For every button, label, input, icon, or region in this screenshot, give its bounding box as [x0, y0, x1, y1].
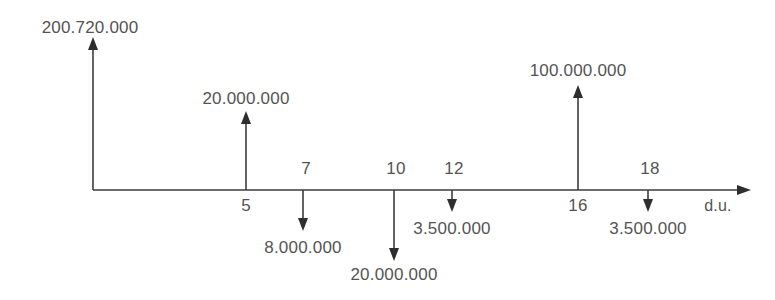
amount-label-period-18: 3.500.000 — [609, 219, 686, 239]
period-label-7: 7 — [301, 159, 311, 179]
cash-flow-diagram: 200.720.000 20.000.000 8.000.000 20.000.… — [0, 0, 775, 300]
flow-arrow-period-10 — [389, 190, 399, 261]
arrow-up-icon-period-5 — [241, 111, 251, 124]
arrow-down-icon-period-18 — [643, 199, 653, 212]
axis-unit-label: d.u. — [704, 197, 732, 215]
cash-flow-canvas — [0, 0, 775, 300]
flow-arrow-period-5 — [241, 111, 251, 190]
time-axis — [93, 185, 751, 195]
amount-label-period-7: 8.000.000 — [264, 238, 341, 258]
arrow-down-icon-period-12 — [447, 199, 457, 212]
amount-label-period-5: 20.000.000 — [202, 89, 289, 109]
flow-arrow-period-12 — [447, 190, 457, 212]
flow-arrow-period-18 — [643, 190, 653, 212]
amount-label-period-0: 200.720.000 — [42, 18, 139, 38]
amount-label-period-16: 100.000.000 — [530, 61, 627, 81]
period-label-5: 5 — [241, 196, 251, 216]
arrow-down-icon-period-7 — [298, 218, 308, 231]
axis-arrowhead-icon — [737, 185, 751, 195]
arrow-up-icon-period-0 — [88, 37, 98, 50]
period-label-12: 12 — [444, 159, 463, 179]
arrow-up-icon-period-16 — [573, 85, 583, 98]
flow-arrow-period-7 — [298, 190, 308, 231]
flow-arrow-period-16 — [573, 85, 583, 190]
flow-arrow-period-0 — [88, 37, 98, 190]
period-label-16: 16 — [568, 196, 587, 216]
amount-label-period-10: 20.000.000 — [350, 265, 437, 285]
arrow-down-icon-period-10 — [389, 248, 399, 261]
amount-label-period-12: 3.500.000 — [413, 219, 490, 239]
period-label-18: 18 — [640, 159, 659, 179]
period-label-10: 10 — [386, 159, 405, 179]
